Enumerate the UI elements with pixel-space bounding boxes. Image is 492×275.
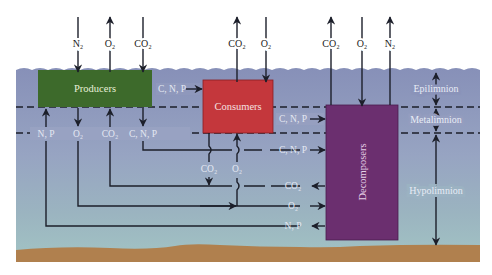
producers-cnp-label: C, N, P [129,129,157,139]
n2-label-decomposers: N₂ [385,38,396,49]
decomposers-cnp-label: C, N, P [279,145,307,155]
o2-label-consumers: O₂ [261,38,272,49]
n2-label-producers: N₂ [73,38,84,49]
consumers-label: Consumers [214,101,261,112]
producers-to-consumers-label: C, N, P [158,84,186,94]
producers-label: Producers [74,83,116,94]
decomposers-label: Decomposers [357,143,368,200]
producers-co2-label: CO₂ [102,129,119,139]
consumers-to-decomposers-meta-label: C, N, P [279,114,307,124]
hypolimnion-label: Hypolimnion [409,185,462,196]
decomposers-co2-label: CO₂ [285,181,302,191]
co2-label-decomposers: CO₂ [322,38,339,49]
producers-np-label: N, P [38,129,55,139]
lake-nutrient-cycle-diagram: Producers Consumers Decomposers N₂ O₂ CO… [0,0,492,275]
producers-o2-label: O₂ [73,129,83,139]
consumers-co2-label: CO₂ [201,164,218,174]
co2-label-producers: CO₂ [134,38,151,49]
consumers-o2-label: O₂ [232,164,242,174]
decomposers-np-label: N, P [285,221,302,231]
epilimnion-label: Epilimnion [414,83,459,94]
decomposers-o2-label: O₂ [288,201,298,211]
co2-label-consumers: CO₂ [228,38,245,49]
o2-label-producers: O₂ [105,38,116,49]
o2-label-decomposers: O₂ [357,38,368,49]
metalimnion-label: Metalimnion [410,114,462,125]
